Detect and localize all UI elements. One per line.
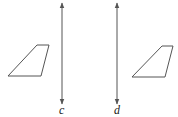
line-c-label: c [59, 103, 65, 117]
right-trapezoid [132, 46, 173, 77]
line-d-label: d [114, 103, 121, 117]
left-trapezoid [8, 45, 49, 76]
diagram-canvas: c d [0, 0, 178, 117]
